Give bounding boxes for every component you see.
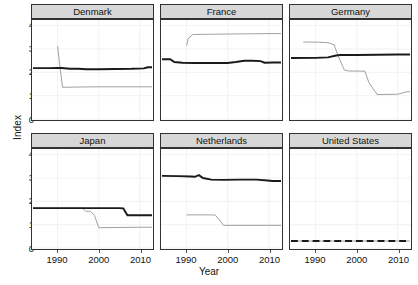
facet-strip-label: Netherlands — [196, 136, 247, 146]
x-tick-mark — [57, 250, 58, 253]
facet-strip-united-states: United States — [289, 133, 412, 148]
x-tick-label: 2010 — [130, 254, 151, 265]
x-tick-label: 2000 — [217, 254, 238, 265]
plot-area — [289, 19, 412, 121]
x-tick-label: 2000 — [346, 254, 367, 265]
x-tick-mark — [357, 250, 358, 253]
x-tick-mark — [228, 250, 229, 253]
x-tick-label: 1990 — [175, 254, 196, 265]
x-tick-label: 2000 — [88, 254, 109, 265]
x-tick-mark — [270, 250, 271, 253]
facet-strip-label: Japan — [80, 136, 106, 146]
plot-area — [31, 19, 154, 121]
x-tick-mark — [99, 250, 100, 253]
facet-strip-label: United States — [322, 136, 379, 146]
x-tick-label: 1990 — [46, 254, 67, 265]
facet-strip-france: France — [160, 4, 283, 19]
x-tick-label: 2010 — [259, 254, 280, 265]
facet-panel-united-states: United States — [289, 133, 412, 250]
facet-strip-japan: Japan — [31, 133, 154, 148]
facet-panel-germany: Germany — [289, 4, 412, 121]
facet-strip-netherlands: Netherlands — [160, 133, 283, 148]
plot-area — [31, 148, 154, 250]
plot-area — [160, 19, 283, 121]
facet-panel-netherlands: Netherlands — [160, 133, 283, 250]
x-tick-mark — [399, 250, 400, 253]
facet-panel-france: France — [160, 4, 283, 121]
facet-panel-japan: Japan — [31, 133, 154, 250]
facet-line-chart-figure: Index Year 01234 01234 19902000201019902… — [0, 0, 418, 285]
facet-strip-label: France — [207, 7, 237, 17]
x-axis-ticks-row: 199020002010199020002010199020002010 — [0, 250, 418, 270]
x-tick-label: 2010 — [388, 254, 409, 265]
x-tick-mark — [315, 250, 316, 253]
x-tick-mark — [141, 250, 142, 253]
facet-strip-denmark: Denmark — [31, 4, 154, 19]
facet-strip-label: Germany — [331, 7, 370, 17]
plot-area — [160, 148, 283, 250]
x-tick-mark — [186, 250, 187, 253]
facet-strip-germany: Germany — [289, 4, 412, 19]
facet-strip-label: Denmark — [73, 7, 112, 17]
facet-panel-denmark: Denmark — [31, 4, 154, 121]
plot-area — [289, 148, 412, 250]
x-tick-label: 1990 — [304, 254, 325, 265]
